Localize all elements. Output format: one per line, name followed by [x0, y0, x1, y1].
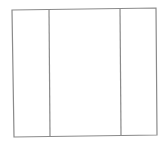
left-column-divider — [49, 9, 50, 136]
outer-box — [12, 8, 157, 137]
right-column-divider — [120, 8, 121, 135]
diagram-canvas — [0, 0, 162, 143]
three-column-diagram — [0, 0, 162, 143]
